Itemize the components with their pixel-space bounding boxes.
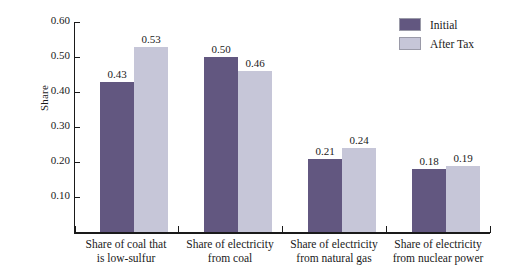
category-label-line2: is low-sulfur: [67, 251, 185, 265]
x-axis-group-tick: [386, 226, 387, 233]
bar-value-label: 0.50: [198, 43, 244, 55]
x-axis-group-tick: [282, 226, 283, 233]
bar-initial[interactable]: [100, 82, 134, 233]
bar-group: 0.500.46: [204, 22, 272, 232]
legend-swatch: [399, 37, 421, 50]
category-label: Share of electricityfrom nuclear power: [379, 237, 497, 265]
y-axis-tick-label: 0.50: [28, 49, 70, 61]
legend-item[interactable]: Initial: [399, 16, 474, 33]
bar-after-tax[interactable]: [134, 47, 168, 233]
x-axis-group-tick: [178, 226, 179, 233]
category-label-line2: from nuclear power: [379, 251, 497, 265]
bar-group: 0.210.24: [308, 22, 376, 232]
y-axis-tick-label: 0.20: [28, 154, 70, 166]
category-label-line1: Share of electricity: [394, 238, 482, 250]
y-axis-tick-label: 0.60: [28, 14, 70, 26]
category-label: Share of coal thatis low-sulfur: [67, 237, 185, 265]
legend-label: After Tax: [430, 38, 474, 50]
category-label-line2: from natural gas: [275, 251, 393, 265]
x-axis-group-tick: [490, 226, 491, 233]
bar-after-tax[interactable]: [238, 71, 272, 232]
legend-item[interactable]: After Tax: [399, 35, 474, 52]
y-axis-tick-label: 0.30: [28, 119, 70, 131]
bar-initial[interactable]: [204, 57, 238, 232]
category-label-line1: Share of coal that: [86, 238, 167, 250]
bar-initial[interactable]: [308, 159, 342, 233]
bar-chart: Share 0.100.200.300.400.500.60 0.430.530…: [0, 0, 505, 278]
x-axis-group-tick: [75, 226, 76, 233]
category-label-line2: from coal: [171, 251, 289, 265]
bar-value-label: 0.19: [440, 152, 486, 164]
y-axis-tick-label: 0.10: [28, 189, 70, 201]
bar-value-label: 0.53: [128, 33, 174, 45]
category-label-line1: Share of electricity: [186, 238, 274, 250]
category-label: Share of electricityfrom coal: [171, 237, 289, 265]
bar-after-tax[interactable]: [342, 148, 376, 232]
y-axis-tick-label: 0.40: [28, 84, 70, 96]
bar-group: 0.430.53: [100, 22, 168, 232]
bar-value-label: 0.24: [336, 134, 382, 146]
chart-legend: InitialAfter Tax: [399, 16, 474, 54]
legend-swatch: [399, 18, 421, 31]
category-label-line1: Share of electricity: [290, 238, 378, 250]
bar-after-tax[interactable]: [446, 166, 480, 233]
bar-value-label: 0.46: [232, 57, 278, 69]
category-label: Share of electricityfrom natural gas: [275, 237, 393, 265]
bar-initial[interactable]: [412, 169, 446, 232]
legend-label: Initial: [430, 19, 457, 31]
